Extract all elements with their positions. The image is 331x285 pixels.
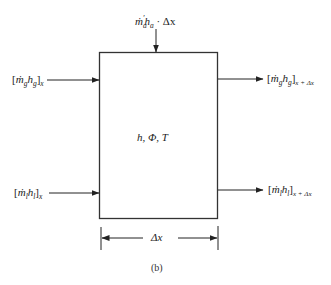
dimension-label: Δx [151,232,162,243]
top-input-label: ṁa′ha · Δx [135,15,175,30]
figure-caption: (b) [151,262,163,273]
liquid-out-label: [ṁlhl]x + Δx [268,184,312,198]
liquid-in-label: [ṁlhl]x [14,187,42,201]
gas-in-label: [ṁghg]x [12,74,44,88]
box-state-label: h, Φ, T [137,132,168,143]
gas-out-label: [ṁghg]x + Δx [267,73,314,87]
